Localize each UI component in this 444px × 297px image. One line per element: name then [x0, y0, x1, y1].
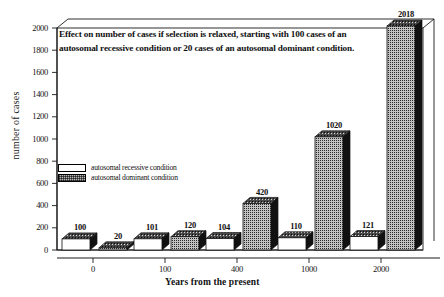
- y-tick-label: 200: [18, 223, 48, 232]
- bar-value-label: 420: [246, 187, 278, 197]
- y-tick-label: 1200: [18, 112, 48, 121]
- bar-recessive-3: [278, 232, 313, 250]
- chart-title: Effect on number of cases if selection i…: [59, 28, 359, 56]
- y-tick-label: 0: [18, 246, 48, 255]
- y-tick-label: 2000: [18, 24, 48, 33]
- legend-label: autosomal dominant condition: [91, 174, 178, 182]
- y-tick-label: 800: [18, 157, 48, 166]
- bar-dominant-3: [315, 131, 350, 250]
- bar-recessive-4: [350, 231, 385, 250]
- bar-dominant-0: [99, 242, 134, 250]
- y-tick-label: 1600: [18, 68, 48, 77]
- bar-value-label: 121: [352, 220, 384, 230]
- bar-value-label: 104: [208, 222, 240, 232]
- bar-recessive-0: [62, 233, 97, 250]
- bar-recessive-1: [134, 233, 169, 250]
- y-tick-label: 400: [18, 201, 48, 210]
- legend-item-recessive: autosomal recessive condition: [58, 163, 178, 172]
- x-axis: [57, 258, 440, 263]
- y-axis-ticks: [52, 28, 57, 250]
- bar-value-label: 20: [102, 231, 134, 241]
- bar-value-label: 101: [136, 222, 168, 232]
- y-tick-label: 1400: [18, 90, 48, 99]
- bar-dominant-2: [243, 197, 278, 250]
- recessive-swatch-icon: [58, 164, 86, 172]
- dominant-swatch-icon: [58, 174, 86, 182]
- bar-value-label: 110: [280, 221, 312, 231]
- x-axis-title: Years from the present: [165, 278, 259, 288]
- x-tick-label: 100: [145, 265, 185, 274]
- bar-recessive-2: [206, 233, 241, 251]
- y-tick-label: 1000: [18, 135, 48, 144]
- bar-chart: number of cases 2000 1800 1600 1400 1200…: [0, 0, 444, 297]
- y-tick-label: 1800: [18, 46, 48, 55]
- chart-legend: autosomal recessive condition autosomal …: [58, 163, 178, 184]
- bar-value-label: 2018: [390, 9, 422, 19]
- x-tick-label: 0: [73, 265, 113, 274]
- bar-value-label: 120: [174, 220, 206, 230]
- x-tick-label: 400: [217, 265, 257, 274]
- bar-value-label: 1020: [318, 120, 350, 130]
- x-tick-label: 1000: [289, 265, 329, 274]
- bar-dominant-1: [171, 231, 206, 250]
- bar-dominant-4: [387, 20, 422, 250]
- x-tick-label: 2000: [361, 265, 401, 274]
- y-tick-label: 600: [18, 179, 48, 188]
- legend-item-dominant: autosomal dominant condition: [58, 174, 178, 183]
- bar-value-label: 100: [64, 222, 96, 232]
- legend-label: autosomal recessive condition: [91, 164, 177, 172]
